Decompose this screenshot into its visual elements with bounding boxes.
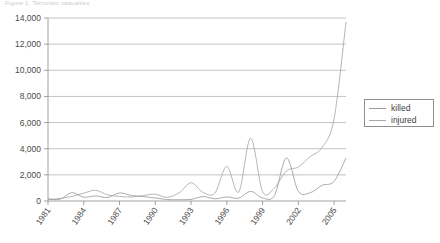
x-tick-label: 1981 xyxy=(34,205,53,226)
legend-item-killed: killed xyxy=(365,102,433,114)
y-tick-label: 8,000 xyxy=(20,91,42,101)
chart-legend: killed injured xyxy=(364,99,434,127)
x-axis-ticks-group: 198119841987199019931996199920022005 xyxy=(34,201,339,227)
y-tick-label: 12,000 xyxy=(15,39,41,49)
y-tick-label: 10,000 xyxy=(15,65,41,75)
y-tick-label: 14,000 xyxy=(15,13,41,23)
x-tick-label: 2002 xyxy=(284,205,303,226)
x-tick-label: 1993 xyxy=(177,205,196,226)
x-tick-label: 1996 xyxy=(212,205,231,226)
legend-label-killed: killed xyxy=(391,104,410,113)
legend-item-injured: injured xyxy=(365,114,433,126)
x-tick-label: 2005 xyxy=(320,205,339,226)
gridlines-group xyxy=(48,18,346,175)
x-tick-label: 1999 xyxy=(248,205,267,226)
casualties-line-chart: Figure 1. Terrorism casualties 02,0004,0… xyxy=(0,0,440,243)
x-tick-label: 1987 xyxy=(105,205,124,226)
x-tick-label: 1984 xyxy=(69,205,88,226)
line-swatch-icon xyxy=(369,108,386,109)
series-line-killed xyxy=(48,158,346,200)
y-tick-label: 6,000 xyxy=(20,118,42,128)
series-line-injured xyxy=(48,22,346,200)
y-tick-label: 0 xyxy=(36,196,41,206)
y-tick-label: 2,000 xyxy=(20,170,42,180)
legend-label-injured: injured xyxy=(391,116,417,125)
line-swatch-icon xyxy=(369,120,386,121)
y-tick-label: 4,000 xyxy=(20,144,42,154)
y-axis-ticks-group: 02,0004,0006,0008,00010,00012,00014,000 xyxy=(15,13,48,206)
x-tick-label: 1990 xyxy=(141,205,160,226)
